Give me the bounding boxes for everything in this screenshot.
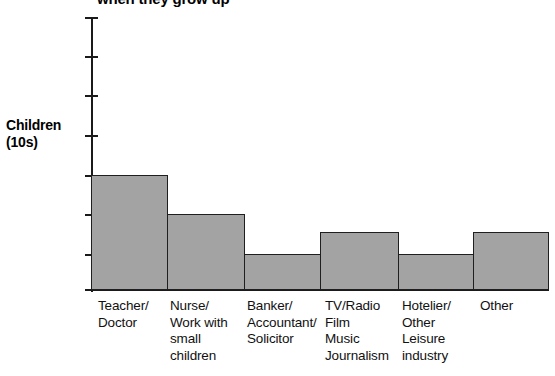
bar-2 xyxy=(244,254,321,290)
y-axis-tick-2 xyxy=(85,95,98,97)
y-axis-tick-3 xyxy=(85,135,98,137)
x-axis-label-2: Banker/Accountant/Solicitor xyxy=(247,298,317,348)
y-axis-label-line-2: (10s) xyxy=(6,134,61,151)
x-axis-label-4-line-1: Other xyxy=(402,315,451,332)
x-axis-label-2-line-1: Accountant/ xyxy=(247,315,317,332)
x-axis-label-4-line-0: Hotelier/ xyxy=(402,298,451,315)
bar-3 xyxy=(320,232,399,290)
y-axis-tick-0 xyxy=(85,17,98,19)
x-axis-label-3-line-1: Film xyxy=(325,315,389,332)
bar-4 xyxy=(398,254,474,290)
x-axis-label-4: Hotelier/OtherLeisureindustry xyxy=(402,298,451,364)
x-axis-label-5-line-0: Other xyxy=(480,298,513,315)
y-axis-label: Children (10s) xyxy=(6,117,61,151)
x-axis-label-1-line-3: children xyxy=(170,348,228,365)
x-axis-label-3: TV/RadioFilmMusicJournalism xyxy=(325,298,389,364)
x-axis-label-5: Other xyxy=(480,298,513,315)
y-axis-label-line-1: Children xyxy=(6,117,61,134)
x-axis-label-0-line-1: Doctor xyxy=(98,315,149,332)
x-axis-label-1: Nurse/Work withsmallchildren xyxy=(170,298,228,364)
x-axis-label-3-line-0: TV/Radio xyxy=(325,298,389,315)
x-axis-label-3-line-2: Music xyxy=(325,331,389,348)
x-axis-label-1-line-2: small xyxy=(170,331,228,348)
x-axis-label-4-line-3: industry xyxy=(402,348,451,365)
bar-0 xyxy=(91,175,168,290)
x-axis-label-1-line-1: Work with xyxy=(170,315,228,332)
chart-title: when they grow up xyxy=(97,0,397,7)
x-axis-label-1-line-0: Nurse/ xyxy=(170,298,228,315)
bar-1 xyxy=(167,214,245,290)
x-axis-label-2-line-0: Banker/ xyxy=(247,298,317,315)
x-axis-label-2-line-2: Solicitor xyxy=(247,331,317,348)
x-axis-label-0: Teacher/Doctor xyxy=(98,298,149,331)
bar-5 xyxy=(473,232,549,290)
x-axis-label-4-line-2: Leisure xyxy=(402,331,451,348)
bar-chart: when they grow up Children (10s) Teacher… xyxy=(0,0,555,376)
x-axis-label-0-line-0: Teacher/ xyxy=(98,298,149,315)
y-axis-tick-1 xyxy=(85,56,98,58)
x-axis-label-3-line-3: Journalism xyxy=(325,348,389,365)
